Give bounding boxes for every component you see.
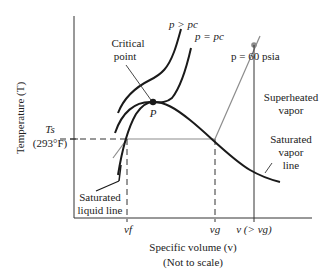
point-p-label: P [149,107,157,119]
superheated-label-2: vapor [278,104,303,116]
ts-label: Ts [45,123,54,135]
tv-diagram: Temperature (T) Critical point P p > pc … [0,0,332,278]
sat-liquid-label-1: Saturated [79,191,121,203]
sat-vapor-label-3: line [283,159,300,171]
p-eq-pc-label: p = pc [194,30,224,42]
x-axis-label: Specific volume (v) [149,241,237,254]
x-axis-note: (Not to scale) [163,256,223,269]
sat-vapor-leader [265,163,272,173]
vg-label: vg [210,223,221,235]
vf-label: vf [124,223,134,235]
saturated-vapor-curve [153,102,280,182]
p-60-label: p = 60 psia [231,50,280,62]
superheated-label-1: Superheated [264,91,319,103]
p-gt-pc-label: p > pc [168,18,198,30]
critical-point-label-1: Critical [112,37,145,49]
sat-vapor-label-1: Saturated [270,133,312,145]
y-axis-label: Temperature (T) [14,82,27,155]
sat-liquid-leader [96,181,119,191]
v-gt-vg-label: v (> vg) [236,223,272,236]
critical-point-label-2: point [114,50,137,62]
sat-liquid-label-2: liquid line [78,204,123,216]
ts-value-label: (293°F) [33,137,68,150]
sat-vapor-label-2: vapor [278,146,303,158]
